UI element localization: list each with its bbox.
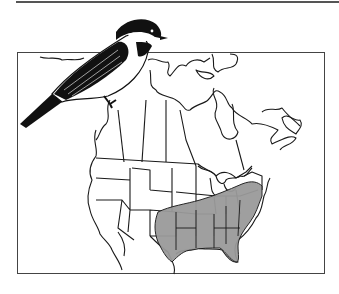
- alaska-panhandle: [96, 100, 110, 140]
- bird-bib: [136, 42, 152, 57]
- pacific-coast: [88, 130, 112, 250]
- hudson-bay: [213, 88, 238, 139]
- species-range-area: [155, 182, 262, 262]
- bird-beak: [160, 36, 168, 40]
- labrador: [262, 108, 300, 126]
- baffin-islands: [212, 54, 238, 72]
- arctic-coast: [40, 57, 84, 60]
- bird-feet: [104, 96, 116, 108]
- ontario-quebec: [236, 140, 244, 170]
- bc-alberta: [118, 110, 124, 162]
- manitoba-ontario: [180, 110, 196, 166]
- range-map-illustration: [0, 0, 339, 294]
- bird-tail: [20, 94, 62, 128]
- us-canada-border: [96, 158, 252, 178]
- canada-north-coast: [150, 70, 296, 150]
- bird-eye: [151, 30, 154, 33]
- chickadee-bird: [20, 19, 168, 128]
- alberta-sask: [142, 100, 146, 162]
- baja-california: [112, 232, 125, 270]
- arctic-islands: [148, 58, 214, 79]
